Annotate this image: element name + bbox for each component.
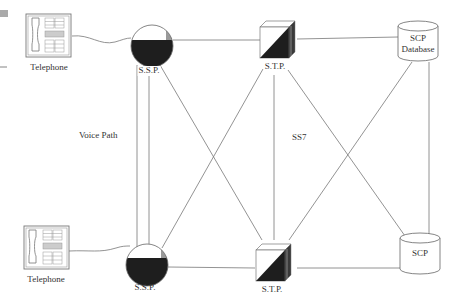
stp-switch-icon (256, 244, 291, 281)
ssp-bottom-label: S.S.P. (135, 283, 156, 293)
ss7-label: SS7 (292, 133, 307, 143)
connections (69, 36, 429, 268)
edge-artifact (0, 10, 8, 17)
scp-database-label-line2: Database (402, 45, 435, 55)
telephone-icon (26, 14, 71, 57)
stp-top-label: S.T.P. (264, 62, 287, 72)
telephone-bottom-label: Telephone (27, 275, 64, 285)
ss7-network-diagram (0, 0, 464, 302)
stp-switch-icon (260, 21, 295, 58)
voice-path-label: Voice Path (79, 131, 118, 141)
telephone-icon (24, 226, 69, 269)
ssp-top-label: S.S.P. (138, 66, 161, 76)
scp-label: SCP (412, 249, 428, 259)
scp-database-label-line1: SCP (410, 34, 426, 44)
ssp-switch-icon (128, 25, 178, 70)
telephone-top-label: Telephone (30, 63, 67, 73)
stp-bottom-label: S.T.P. (262, 285, 283, 295)
